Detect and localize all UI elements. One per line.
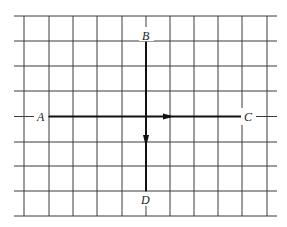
grid-diagram: A B C D xyxy=(0,0,287,227)
label-d: D xyxy=(140,193,150,207)
label-b: B xyxy=(142,29,150,43)
arrow-down-icon xyxy=(143,135,149,147)
label-a: A xyxy=(36,110,45,124)
label-c: C xyxy=(244,110,253,124)
arrow-right-icon xyxy=(163,114,174,120)
